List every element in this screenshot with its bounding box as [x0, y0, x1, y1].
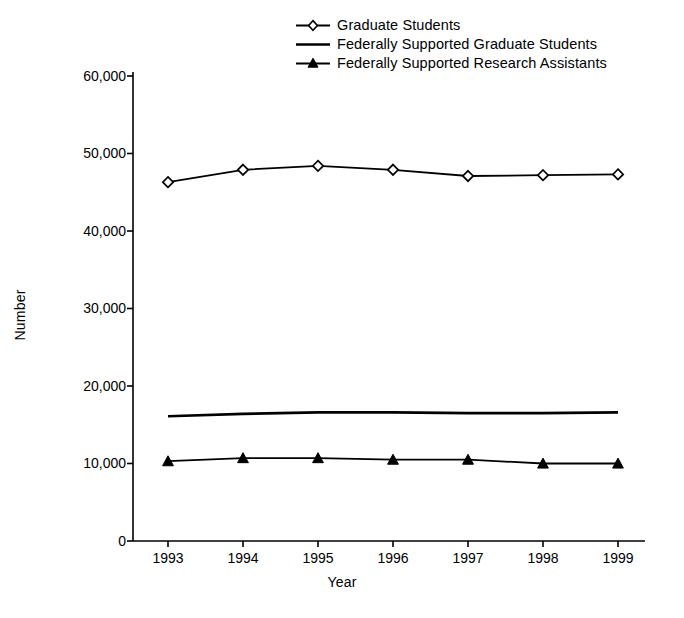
x-axis-ticks [168, 541, 618, 547]
plot-area [0, 0, 684, 618]
data-point-open-diamond [388, 165, 398, 175]
series-graduate-students [163, 161, 623, 188]
axis-lines [133, 72, 645, 541]
data-point-open-diamond [613, 169, 623, 179]
data-series-layer [163, 161, 624, 468]
y-axis-ticks [127, 76, 133, 541]
data-point-open-diamond [313, 161, 323, 171]
chart-figure: Graduate Students Federally Supported Gr… [0, 0, 684, 618]
data-point-open-diamond [238, 165, 248, 175]
data-point-open-diamond [463, 171, 473, 181]
series-federally-supported-graduate-students [168, 412, 618, 416]
series-federally-supported-research-assistants [163, 453, 624, 468]
data-point-open-diamond [538, 170, 548, 180]
data-point-open-diamond [163, 177, 173, 187]
series-line [168, 412, 618, 416]
